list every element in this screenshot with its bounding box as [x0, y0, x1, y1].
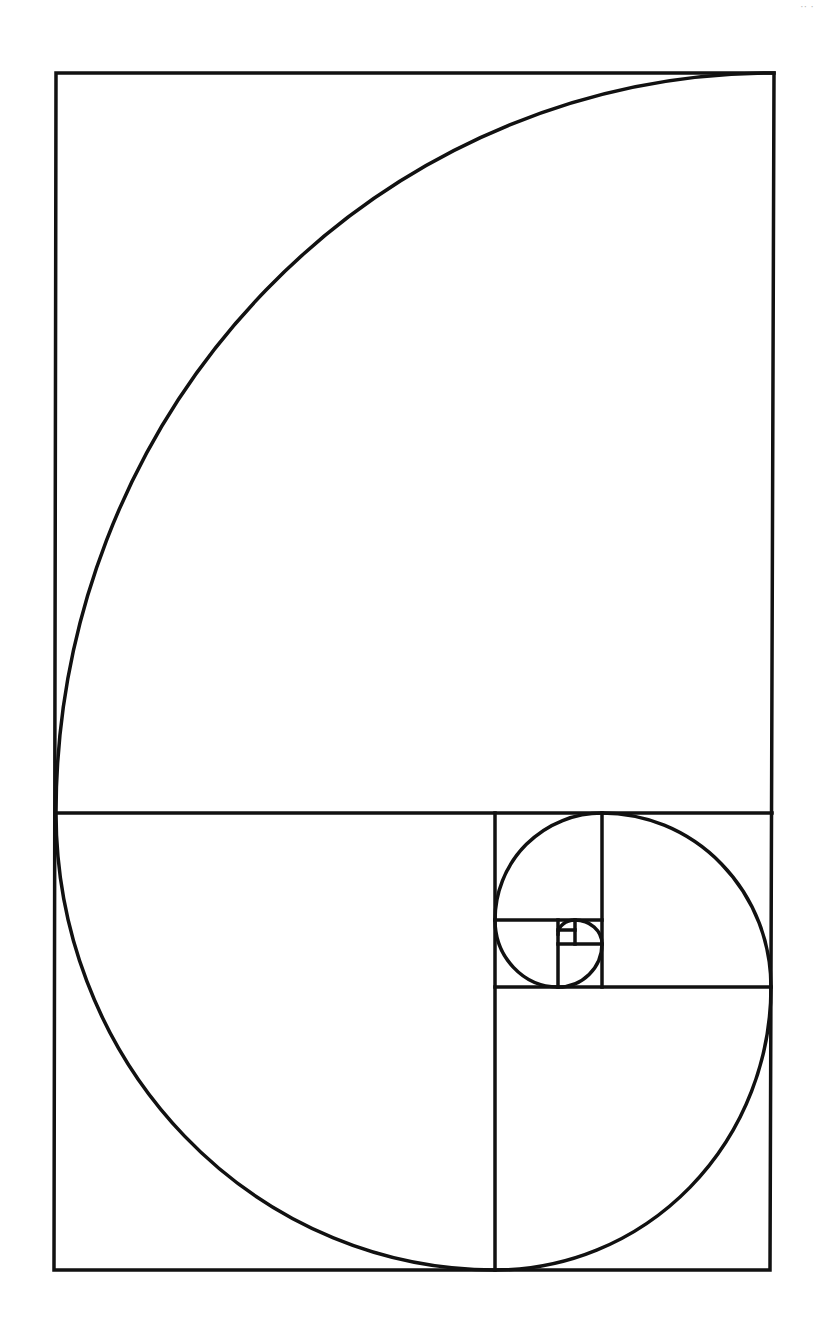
golden-spiral-diagram [0, 0, 816, 1337]
golden-spiral [56, 73, 774, 1270]
outer-rectangle [54, 73, 774, 1270]
